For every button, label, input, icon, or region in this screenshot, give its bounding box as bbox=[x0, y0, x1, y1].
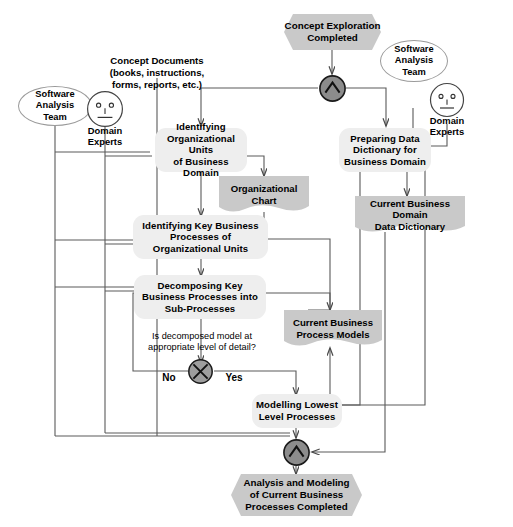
artifact-label: Current Business Domain Data Dictionary bbox=[355, 198, 465, 233]
event-label-line1: Concept Exploration bbox=[285, 20, 381, 31]
actor-domain-experts-right[interactable] bbox=[429, 82, 465, 118]
activity-diagram-canvas: Concept Exploration Completed Concept Do… bbox=[0, 0, 513, 527]
artifact-current-business-process-models: Current Business Process Models bbox=[284, 310, 382, 348]
and-fork-top bbox=[318, 74, 347, 103]
activity-line1: Modelling Lowest bbox=[256, 399, 338, 410]
artifact-line1: Current Business Domain bbox=[370, 198, 450, 221]
artifact-current-business-domain-data-dictionary: Current Business Domain Data Dictionary bbox=[355, 196, 465, 234]
actor-software-analysis-team-right[interactable]: Software Analysis Team bbox=[380, 40, 448, 82]
artifact-line2: Chart bbox=[251, 195, 276, 206]
decision-question-line1: Is decomposed model at bbox=[152, 331, 252, 341]
activity-line2: Dictionary for bbox=[353, 144, 417, 155]
input-concept-documents: Concept Documents (books, instructions, … bbox=[92, 55, 222, 90]
decision-question: Is decomposed model at appropriate level… bbox=[128, 331, 276, 354]
activity-preparing-data-dictionary[interactable]: Preparing Data Dictionary for Business D… bbox=[339, 128, 431, 172]
actor-label-line2: Experts bbox=[430, 126, 464, 137]
event-label-line1: Analysis and Modeling bbox=[243, 477, 349, 488]
event-label-line2: of Current Business bbox=[250, 489, 344, 500]
actor-domain-experts-left[interactable] bbox=[86, 90, 124, 128]
activity-line2: Organizational Units bbox=[167, 133, 235, 156]
event-label-line2: Completed bbox=[307, 32, 358, 43]
actor-label-line2: Analysis bbox=[395, 55, 433, 65]
event-label-line3: Processes Completed bbox=[245, 501, 347, 512]
activity-line2: Processes of bbox=[170, 231, 231, 242]
event-label: Analysis and Modeling of Current Busines… bbox=[243, 477, 349, 514]
actor-label-line1: Software bbox=[394, 44, 433, 54]
activity-label: Modelling Lowest Level Processes bbox=[256, 399, 338, 422]
event-concept-exploration-completed: Concept Exploration Completed bbox=[284, 14, 381, 50]
actor-label-line1: Software bbox=[35, 89, 74, 99]
activity-line1: Preparing Data bbox=[350, 133, 420, 144]
activity-line1: Identifying bbox=[176, 121, 226, 132]
activity-label: Decomposing Key Business Processes into … bbox=[142, 280, 258, 315]
artifact-label: Current Business Process Models bbox=[290, 317, 376, 340]
event-analysis-modeling-completed: Analysis and Modeling of Current Busines… bbox=[231, 474, 362, 516]
actor-label: Software Analysis Team bbox=[394, 44, 433, 78]
artifact-line1: Organizational bbox=[231, 183, 298, 194]
actor-label-line2: Experts bbox=[88, 136, 122, 147]
and-fork-icon bbox=[318, 74, 347, 103]
actor-label-line1: Domain bbox=[430, 115, 464, 126]
concept-documents-line2: (books, instructions, bbox=[110, 67, 204, 78]
activity-line3: of Business Domain bbox=[173, 156, 228, 179]
artifact-organizational-chart: Organizational Chart bbox=[219, 176, 309, 214]
activity-identifying-organizational-units[interactable]: Identifying Organizational Units of Busi… bbox=[155, 128, 247, 172]
actor-label-line2: Analysis bbox=[36, 100, 74, 110]
and-fork-icon bbox=[282, 438, 311, 467]
concept-documents-line3: forms, reports, etc.) bbox=[112, 79, 202, 90]
artifact-line2: Process Models bbox=[296, 329, 369, 340]
activity-line1: Decomposing Key bbox=[157, 280, 242, 291]
concept-documents-line1: Concept Documents bbox=[110, 55, 203, 66]
activity-label: Identifying Key Business Processes of Or… bbox=[142, 220, 259, 255]
activity-line2: Business Processes into bbox=[142, 291, 258, 302]
activity-modelling-lowest-level-processes[interactable]: Modelling Lowest Level Processes bbox=[252, 394, 342, 428]
person-face-icon bbox=[86, 90, 124, 128]
activity-line2: Level Processes bbox=[259, 411, 336, 422]
actor-label-line1: Domain bbox=[88, 125, 122, 136]
actor-label: Software Analysis Team bbox=[35, 89, 74, 123]
decision-branch-yes: Yes bbox=[219, 372, 249, 383]
activity-line3: Sub-Processes bbox=[165, 303, 236, 314]
activity-label: Preparing Data Dictionary for Business D… bbox=[344, 133, 426, 168]
artifact-line2: Data Dictionary bbox=[375, 221, 445, 232]
activity-label: Identifying Organizational Units of Busi… bbox=[155, 121, 247, 179]
and-join-bottom bbox=[282, 438, 311, 467]
activity-line3: Business Domain bbox=[344, 156, 426, 167]
decision-branch-no: No bbox=[155, 372, 183, 383]
actor-label-line3: Team bbox=[402, 67, 426, 77]
activity-line1: Identifying Key Business bbox=[142, 220, 259, 231]
decision-node[interactable] bbox=[187, 358, 214, 385]
activity-decomposing-key-business-processes[interactable]: Decomposing Key Business Processes into … bbox=[134, 275, 266, 319]
actor-label-line3: Team bbox=[43, 112, 67, 122]
actor-software-analysis-team-left[interactable]: Software Analysis Team bbox=[18, 86, 92, 126]
person-face-icon bbox=[429, 82, 465, 118]
artifact-line1: Current Business bbox=[293, 317, 373, 328]
activity-identifying-key-business-processes[interactable]: Identifying Key Business Processes of Or… bbox=[133, 215, 268, 259]
decision-question-line2: appropriate level of detail? bbox=[148, 342, 256, 352]
x-decision-icon bbox=[187, 358, 214, 385]
artifact-label: Organizational Chart bbox=[228, 183, 301, 206]
activity-line3: Organizational Units bbox=[153, 243, 248, 254]
connector-layer bbox=[0, 0, 513, 527]
actor-domain-experts-left-label: Domain Experts bbox=[66, 125, 144, 148]
event-label: Concept Exploration Completed bbox=[285, 20, 381, 44]
